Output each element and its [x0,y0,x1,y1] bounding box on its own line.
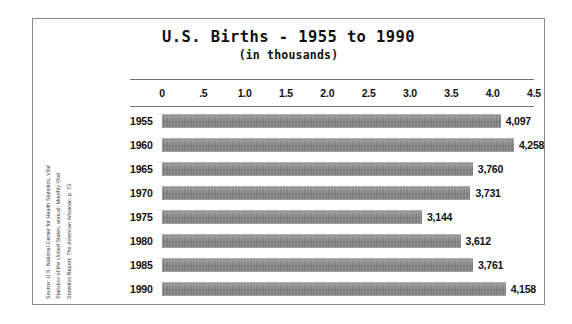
bar-track: 3,760 [162,157,534,181]
bar-value-label-1955: 4,097 [506,115,531,127]
bar-1970 [162,187,470,200]
chart-container: U.S. Births - 1955 to 1990 (in thousands… [32,18,545,305]
chart-row: 19904,158 [130,277,534,301]
bar-value-label-1960: 4,258 [519,139,544,151]
bar-track: 4,258 [162,133,534,157]
y-axis-label-1960: 1960 [130,139,160,151]
source-note-text: Source: U.S. National Center for Health … [43,99,74,299]
bar-1965 [162,163,473,176]
bar-track: 3,761 [162,253,534,277]
x-axis-tick-.5: .5 [199,87,207,99]
y-axis-label-1955: 1955 [130,115,160,127]
axis-rule-bottom [130,106,534,107]
chart-row: 19753,144 [130,205,534,229]
source-note-line-3: Statistics Report; The American Almanac;… [64,99,74,299]
bar-1955 [162,115,501,128]
bar-track: 3,144 [162,205,534,229]
x-axis-tick-0: 0 [159,87,165,99]
y-axis-label-1975: 1975 [130,211,160,223]
y-axis-label-1965: 1965 [130,163,160,175]
bar-value-label-1970: 3,731 [475,187,500,199]
bar-value-label-1980: 3,612 [466,235,491,247]
source-note-line-2: Statistics of the United States, annual;… [53,99,63,299]
source-note-line-3-italic: The American Almanac [66,199,72,256]
y-axis-label-1985: 1985 [130,259,160,271]
y-axis-label-1990: 1990 [130,283,160,295]
source-note-line-2-plain: , annual; Monthly Vital [55,173,61,227]
bar-track: 3,731 [162,181,534,205]
chart-row: 19604,258 [130,133,534,157]
x-axis-tick-3.0: 3.0 [403,87,417,99]
chart-row: 19803,612 [130,229,534,253]
bar-track: 4,158 [162,277,534,301]
source-note-line-3-tail: ; p. 73. [66,182,72,199]
bar-1960 [162,139,514,152]
chart-row: 19703,731 [130,181,534,205]
bar-1980 [162,235,461,248]
x-axis-tick-3.5: 3.5 [444,87,458,99]
chart-subtitle: (in thousands) [33,48,544,63]
bar-track: 3,612 [162,229,534,253]
bar-1975 [162,211,422,224]
x-axis-tick-4.0: 4.0 [486,87,500,99]
plot-area: 19554,09719604,25819653,76019703,7311975… [130,109,534,296]
x-axis-tick-2.0: 2.0 [320,87,334,99]
source-note-line-1: Source: U.S. National Center for Health … [43,99,53,299]
bar-value-label-1975: 3,144 [427,211,452,223]
y-axis-label-1980: 1980 [130,235,160,247]
source-note-line-1-plain: Source: U.S. National Center for Health … [45,176,51,299]
x-axis: 0.51.01.52.02.53.03.54.04.5 [130,79,534,107]
bar-1990 [162,283,506,296]
x-axis-tick-1.5: 1.5 [279,87,293,99]
page-title: U.S. Births - 1955 to 1990 [33,28,544,47]
chart-row: 19653,760 [130,157,534,181]
bar-1985 [162,259,473,272]
bar-value-label-1985: 3,761 [478,259,503,271]
source-note-line-2-italic: Statistics of the United States [55,227,61,299]
x-axis-tick-2.5: 2.5 [362,87,376,99]
bar-track: 4,097 [162,109,534,133]
y-axis-label-1970: 1970 [130,187,160,199]
chart-row: 19554,097 [130,109,534,133]
source-note-line-1-italic: Vital [45,165,51,176]
source-note-line-3-plain: Statistics Report; [66,256,72,299]
x-axis-tick-4.5: 4.5 [527,87,541,99]
bar-value-label-1990: 4,158 [511,283,536,295]
bar-value-label-1965: 3,760 [478,163,503,175]
x-axis-tick-1.0: 1.0 [238,87,252,99]
x-axis-tick-labels: 0.51.01.52.02.53.03.54.04.5 [162,79,534,107]
chart-title-block: U.S. Births - 1955 to 1990 (in thousands… [33,28,544,63]
chart-row: 19853,761 [130,253,534,277]
